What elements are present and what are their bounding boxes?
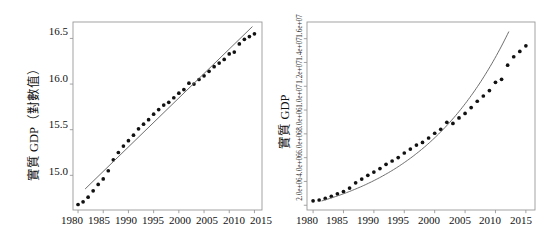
data-point: [451, 122, 455, 126]
data-point: [396, 156, 400, 160]
plot-frame: [73, 22, 262, 210]
trend-line: [85, 27, 252, 189]
data-point: [217, 61, 221, 65]
data-point: [96, 183, 100, 187]
data-point: [232, 50, 236, 54]
data-point: [311, 199, 315, 203]
data-point: [354, 181, 358, 185]
data-point: [372, 170, 376, 174]
data-point: [227, 52, 231, 56]
data-point: [433, 131, 437, 135]
data-point: [182, 88, 186, 92]
data-point: [177, 91, 181, 95]
data-point: [76, 203, 80, 207]
data-point: [427, 136, 431, 140]
panel-right: 實質 GDP 1.6e+07 1.4e+07 1.2e+07 1.0e+07 8…: [274, 0, 548, 250]
panel-left: 實質 GDP（對數值） 16.5 16.0 15.5 15.0 1980 198…: [0, 0, 274, 250]
data-point: [237, 42, 241, 46]
data-point: [366, 174, 370, 178]
data-point: [91, 189, 95, 193]
data-point: [157, 108, 161, 112]
data-point: [518, 50, 522, 54]
data-point: [402, 151, 406, 155]
data-point: [106, 169, 110, 173]
data-point: [317, 198, 321, 202]
figure-container: 實質 GDP（對數值） 16.5 16.0 15.5 15.0 1980 198…: [0, 0, 548, 250]
data-point: [506, 63, 510, 67]
data-point: [152, 112, 156, 116]
data-point: [187, 81, 191, 85]
data-point: [348, 186, 352, 190]
data-point: [512, 55, 516, 59]
data-point: [122, 144, 126, 148]
data-point: [137, 127, 141, 131]
data-point: [101, 177, 105, 181]
data-point: [421, 141, 425, 145]
trend-curve: [322, 32, 509, 201]
data-point: [132, 133, 136, 137]
plot-area-right: [274, 0, 548, 250]
data-point: [248, 35, 252, 39]
data-point: [390, 159, 394, 163]
data-point: [172, 96, 176, 100]
data-point: [524, 44, 528, 48]
data-point: [127, 139, 131, 143]
plot-area-left: [0, 0, 274, 250]
data-point: [147, 118, 151, 122]
data-point: [222, 58, 226, 62]
data-point: [469, 106, 473, 110]
data-point: [481, 94, 485, 98]
data-point: [457, 116, 461, 120]
data-point: [384, 162, 388, 166]
data-point: [409, 147, 413, 151]
data-point: [81, 200, 85, 204]
data-point: [117, 151, 121, 155]
data-point: [360, 177, 364, 181]
data-point: [463, 112, 467, 116]
data-point: [253, 32, 257, 36]
data-point: [167, 100, 171, 104]
plot-frame: [307, 22, 535, 210]
data-point: [243, 37, 247, 41]
data-point: [162, 103, 166, 107]
data-point-group: [76, 32, 256, 206]
data-point: [86, 195, 90, 199]
data-point: [475, 99, 479, 103]
data-point: [500, 78, 504, 82]
data-point: [494, 80, 498, 84]
data-point-group: [311, 44, 527, 203]
data-point: [488, 89, 492, 93]
data-point: [378, 167, 382, 171]
data-point: [415, 143, 419, 147]
data-point: [142, 122, 146, 126]
